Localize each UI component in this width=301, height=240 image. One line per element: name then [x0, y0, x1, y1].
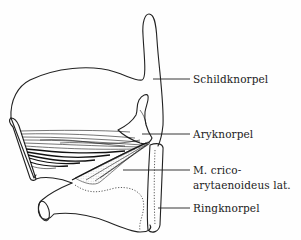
label-aryknorpel: Aryknorpel	[193, 128, 253, 140]
thyroid-lower-edge	[36, 178, 72, 183]
muscle-fibers	[20, 130, 142, 168]
ringknorpel-shape	[37, 144, 164, 232]
label-schildknorpel: Schildknorpel	[193, 73, 268, 85]
m-cricoarytaenoideus-lat-shape	[72, 142, 150, 184]
aryknorpel-shape	[118, 95, 152, 144]
larynx-diagram: Schildknorpel Aryknorpel M. crico- aryta…	[0, 0, 301, 240]
label-m-cricoarytaenoideus-lat-line1: M. crico-	[193, 164, 241, 176]
label-m-cricoarytaenoideus-lat-line2: arytaenoideus lat.	[193, 179, 291, 191]
label-ringknorpel: Ringknorpel	[193, 202, 260, 214]
